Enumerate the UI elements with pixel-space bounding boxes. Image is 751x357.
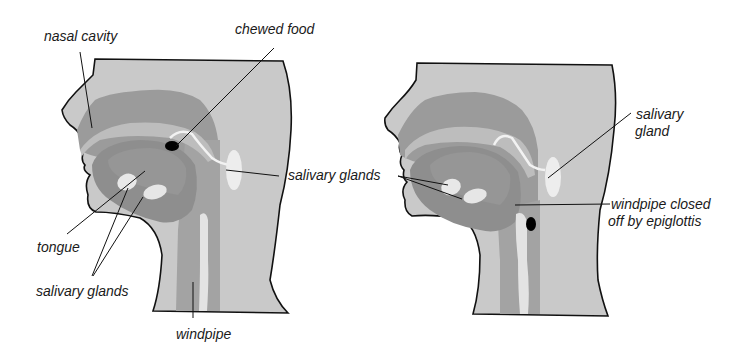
left-head-cross-section — [62, 48, 291, 318]
right-parotid-gland — [545, 157, 561, 197]
right-food-bolus — [526, 217, 536, 231]
label-nasal-cavity: nasal cavity — [44, 28, 117, 44]
label-tongue: tongue — [37, 239, 80, 255]
label-windpipe-closed-line2: off by epiglottis — [608, 213, 701, 229]
right-head-cross-section — [385, 63, 631, 316]
left-windpipe-channel — [199, 213, 208, 311]
label-salivary-glands-shared: salivary glands — [288, 167, 381, 183]
label-chewed-food: chewed food — [235, 21, 314, 37]
label-salivary-gland-line1: salivary — [636, 106, 683, 122]
label-salivary-glands-bottom: salivary glands — [36, 283, 129, 299]
label-salivary-gland-line2: gland — [635, 123, 669, 139]
label-windpipe-closed-line1: windpipe closed — [611, 196, 711, 212]
label-windpipe: windpipe — [176, 326, 231, 342]
left-chewed-food — [165, 141, 179, 151]
